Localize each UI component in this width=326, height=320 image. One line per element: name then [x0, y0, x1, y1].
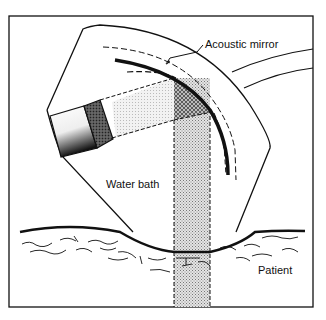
label-water-bath: Water bath [106, 178, 159, 190]
label-acoustic-mirror: Acoustic mirror [205, 38, 278, 50]
label-patient: Patient [258, 264, 292, 276]
